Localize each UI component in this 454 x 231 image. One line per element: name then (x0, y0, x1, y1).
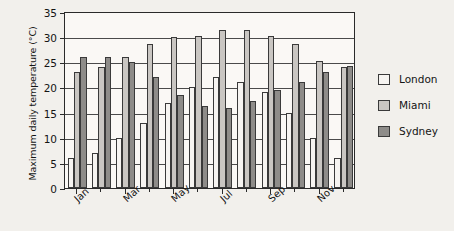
y-axis-tick (60, 189, 65, 190)
y-axis-tick-label: 25 (44, 57, 57, 69)
legend-swatch (378, 100, 390, 111)
y-axis-tick-label: 15 (44, 108, 57, 120)
y-axis-tick-label: 10 (44, 133, 57, 145)
x-axis-tick (100, 188, 101, 192)
legend-item: Miami (378, 92, 438, 118)
bar (323, 72, 329, 188)
x-axis-tick (294, 188, 295, 192)
y-axis-tick-label: 30 (44, 32, 57, 44)
x-axis-tick (246, 188, 247, 192)
y-axis-tick-label: 20 (44, 82, 57, 94)
bars-group (65, 13, 354, 188)
bar (202, 106, 208, 188)
x-axis-tick (197, 188, 198, 192)
bar (177, 95, 183, 188)
legend-label: Sydney (399, 125, 438, 137)
bar (347, 66, 353, 188)
y-axis-tick-label: 0 (50, 183, 57, 195)
bar (129, 62, 135, 188)
legend-swatch (378, 74, 390, 85)
bar (105, 57, 111, 188)
bar (274, 90, 280, 188)
x-axis-tick (343, 188, 344, 192)
legend-label: London (399, 73, 438, 85)
bar (80, 57, 86, 188)
legend: LondonMiamiSydney (378, 66, 438, 144)
legend-swatch (378, 126, 390, 137)
plot-area: 05101520253035 (64, 12, 355, 188)
x-axis-tick-label: Jul (218, 188, 234, 204)
bar-chart-figure: Maximum daily temperature (°C) 051015202… (0, 0, 454, 231)
legend-label: Miami (399, 99, 431, 111)
y-axis-title: Maximum daily temperature (°C) (27, 9, 38, 199)
y-axis-tick-label: 5 (50, 158, 57, 170)
bar (226, 108, 232, 188)
x-axis-tick (149, 188, 150, 192)
bar (153, 77, 159, 188)
legend-item: Sydney (378, 118, 438, 144)
y-axis-tick-label: 35 (44, 7, 57, 19)
bar (299, 82, 305, 188)
bar (250, 101, 256, 188)
legend-item: London (378, 66, 438, 92)
x-axis-line (64, 188, 355, 189)
